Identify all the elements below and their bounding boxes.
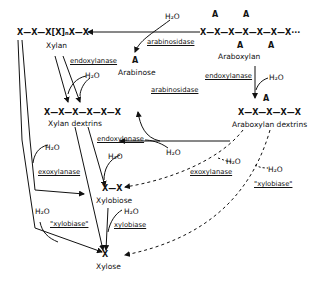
water-label: H₂O [268,165,283,174]
water-label: H₂O [269,73,284,82]
water-label: H₂O [35,207,50,216]
xylan-dextrins-chain: X—X—X—X—X—X [44,108,121,117]
enzyme-endoxylanase-mid: endoxylanase [97,135,144,144]
enzyme-endoxylanase-left: endoxylanase [70,57,117,66]
xylobiose-label: Xylobiose [96,196,132,205]
xylose-label: Xylose [96,262,121,271]
water-label: H₂O [226,157,241,166]
araboxylan-dextrins-chain: X—X—X—X—X [238,108,301,117]
araboxylan-dextrins-label: Araboxylan dextrins [232,120,307,129]
water-label: H₂O [108,152,123,161]
xylan-chain: X—X—X[X]ₙX—X [17,28,89,37]
enzyme-xylobiase-left: "xylobiase" [50,220,88,229]
enzyme-exoxylanase-right: exoxylanase [190,168,232,177]
arabinose-symbol: A [132,56,138,65]
arabinose-label: Arabinose [118,68,156,77]
araboxylan-bottom-arabinose: A A [237,41,285,50]
xylose-symbol: X [102,250,108,259]
water-label: H₂O [165,12,180,21]
araboxylan-label: Araboxylan [218,52,260,61]
water-label: H₂O [45,143,60,152]
enzyme-arabinosidase-mid: arabinosidase [151,86,198,95]
araboxylan-chain: X—X—X—X—X—X—X··· [200,28,300,37]
water-label: H₂O [166,148,181,157]
enzyme-arabinosidase-top: arabinosidase [147,38,194,47]
enzyme-endoxylanase-right: endoxylanase [205,72,252,81]
xylan-dextrins-label: Xylan dextrins [48,119,102,128]
xylan-label: Xylan [46,41,67,50]
water-label: H₂O [124,207,139,216]
enzyme-xylobiase-mid: xylobiase [114,221,146,230]
xylobiose-chain: X—X [102,184,122,193]
water-label: H₂O [85,71,100,80]
araboxylan-top-arabinose: A A [212,10,260,19]
enzyme-xylobiase-right: "xylobiase" [254,180,292,189]
araboxylan-dextrins-arabinose: A [263,94,269,103]
enzyme-exoxylanase-left: exoxylanase [38,168,80,177]
